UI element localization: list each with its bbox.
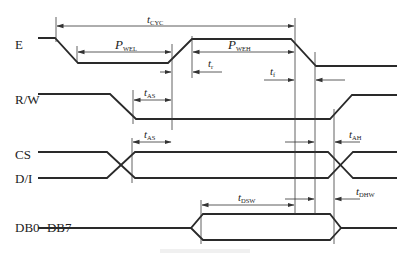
waveform-rw bbox=[38, 94, 397, 119]
timing-diagram: E R/W CS D/I DB0−DB7 tCYC PWEL PWEH tr t… bbox=[0, 0, 411, 258]
signal-label-e: E bbox=[15, 37, 23, 52]
waveform-cs bbox=[38, 152, 397, 178]
tcyc-label: tCYC bbox=[147, 13, 163, 26]
signal-label-rw: R/W bbox=[15, 92, 40, 107]
tdsw-label: tDSW bbox=[238, 191, 256, 204]
tah-label: tAH bbox=[349, 128, 362, 141]
pwel-label: PWEL bbox=[114, 37, 137, 52]
signal-label-di: D/I bbox=[15, 171, 32, 186]
waveform-di bbox=[38, 152, 397, 178]
tas2-label: tAS bbox=[144, 128, 156, 141]
faint-caption bbox=[160, 249, 250, 253]
tdhw-label: tDHW bbox=[356, 185, 375, 198]
waveform-db-bus bbox=[38, 214, 397, 240]
signal-label-cs: CS bbox=[15, 147, 31, 162]
tas1-label: tAS bbox=[144, 86, 156, 99]
tf-label: tf bbox=[270, 65, 276, 78]
tr-label: tr bbox=[208, 57, 214, 70]
